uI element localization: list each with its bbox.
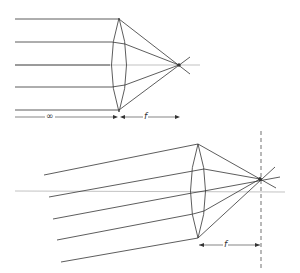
bottom-ray-3 xyxy=(53,193,192,219)
bottom-ray-5 xyxy=(61,238,198,262)
bottom-focal-point xyxy=(259,178,262,181)
bottom-ray-1 xyxy=(44,144,198,175)
infinity-label: ∞ xyxy=(45,112,55,121)
bottom-focal-length-label: f xyxy=(223,240,228,249)
bottom-refracted-1 xyxy=(198,144,276,188)
bottom-ray-4 xyxy=(57,214,193,240)
top-panel xyxy=(15,18,200,119)
top-focal-length-label: f xyxy=(143,112,148,121)
top-focal-point xyxy=(178,64,181,67)
lens-diagram xyxy=(0,0,300,273)
bottom-optical-axis xyxy=(15,191,285,192)
bottom-panel xyxy=(15,131,285,271)
bottom-ray-2 xyxy=(49,171,193,197)
bottom-refracted-5 xyxy=(198,167,275,238)
